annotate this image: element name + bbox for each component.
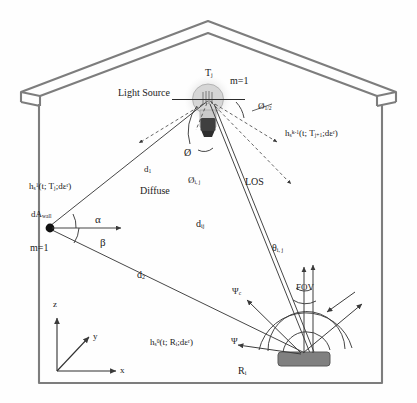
diagram-vector-layer	[0, 0, 417, 403]
light-source-label: Light Source	[118, 88, 170, 98]
irradiance-angle-label: Ø	[184, 148, 191, 158]
coordinate-axes	[57, 318, 116, 371]
receiver-label: Ri	[238, 366, 246, 377]
figure-canvas: Light Source Tj m=1 Ø1/2 hsk-1(t; Tj+1;d…	[0, 0, 417, 403]
theta-incidence-label: θi, j	[272, 243, 283, 254]
mode-number-left-label: m=1	[30, 243, 48, 253]
irradiance-angle-ij-label: Øi, j	[188, 176, 200, 186]
h-zero-formula: hs0(t; Ri;dεr)	[150, 338, 193, 348]
mode-number-top-label: m=1	[230, 76, 248, 86]
alpha-angle-label: α	[95, 214, 101, 225]
beta-angle-label: β	[100, 237, 106, 248]
d1-distance-label: d1	[144, 165, 151, 175]
los-path-label: LOS	[245, 177, 264, 187]
axis-z-label: z	[53, 300, 57, 309]
h-k-minus-1-formula: hsk-1(t; Tj+1;dεr)	[285, 129, 338, 139]
receiver-normal-arrows	[304, 265, 313, 353]
transmitter-label: Tj	[205, 68, 213, 79]
d2-distance-label: d2	[137, 270, 145, 281]
h-first-bounce-formula: hs1(t; Tj;dεr)	[29, 182, 71, 192]
receiver-element	[278, 352, 330, 366]
half-angle-label: Ø1/2	[258, 102, 272, 112]
fov-ray-group	[238, 292, 362, 354]
axis-y-label: y	[93, 332, 98, 341]
psi-c-label: Ψc	[232, 287, 241, 297]
psi-label: Ψ	[231, 337, 238, 346]
fov-label: FOV	[296, 283, 314, 292]
diffuse-path-label: Diffuse	[140, 186, 170, 196]
dij-distance-label: dij	[196, 219, 204, 230]
angle-arc-alpha-beta	[73, 214, 79, 243]
wall-element-label: dAwall	[31, 210, 52, 220]
axis-x-label: x	[120, 366, 125, 375]
